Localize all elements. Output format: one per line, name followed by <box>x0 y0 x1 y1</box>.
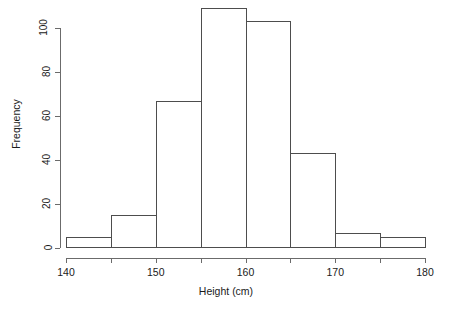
x-axis-tick-label: 150 <box>147 266 165 278</box>
y-axis-tick <box>55 28 60 29</box>
x-axis-tick-label: 170 <box>326 266 344 278</box>
y-axis-tick <box>55 116 60 117</box>
y-axis-line <box>60 28 61 248</box>
x-axis-tick <box>111 258 112 263</box>
x-axis-tick <box>425 258 426 263</box>
histogram-bar <box>335 233 381 248</box>
plot-area <box>66 10 425 248</box>
x-axis-title: Height (cm) <box>0 285 452 297</box>
histogram-bar <box>290 153 336 248</box>
x-axis-tick <box>201 258 202 263</box>
y-axis-tick <box>55 160 60 161</box>
x-axis-tick <box>290 258 291 263</box>
y-axis-tick <box>55 72 60 73</box>
histogram-bar <box>156 101 202 248</box>
x-axis-tick <box>156 258 157 263</box>
histogram-bar <box>246 21 292 248</box>
x-axis-tick <box>66 258 67 263</box>
x-axis-tick <box>246 258 247 263</box>
x-axis-tick-label: 140 <box>57 266 75 278</box>
x-axis-tick-label: 160 <box>237 266 255 278</box>
y-axis-tick <box>55 248 60 249</box>
y-axis-tick <box>55 204 60 205</box>
histogram-bar <box>111 215 157 248</box>
histogram-bar <box>66 237 112 248</box>
y-axis-title: Frequency <box>6 0 26 248</box>
y-axis-title-label: Frequency <box>10 99 22 149</box>
histogram-chart: 020406080100 Frequency 140150160170180 H… <box>0 0 452 309</box>
x-axis-tick-label: 180 <box>416 266 434 278</box>
x-axis-tick <box>335 258 336 263</box>
histogram-bar <box>380 237 426 248</box>
x-axis-tick <box>380 258 381 263</box>
histogram-bar <box>201 8 247 248</box>
